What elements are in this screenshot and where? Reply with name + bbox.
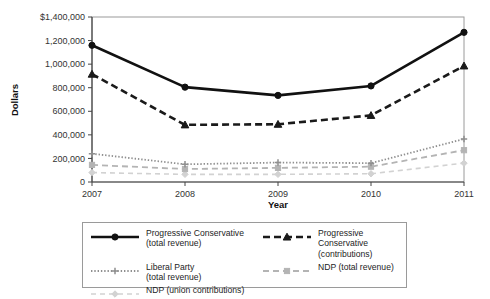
legend-entry[interactable]: NDP (union contributions) <box>89 285 402 299</box>
data-point-marker <box>112 291 118 297</box>
data-point-marker <box>89 162 94 167</box>
data-point-marker <box>368 83 374 89</box>
y-tick-label: 0 <box>80 177 85 187</box>
x-tick-label: 2011 <box>454 189 473 199</box>
x-tick-label: 2010 <box>361 189 381 199</box>
legend-swatch-dashed-diamond-palegray <box>89 286 141 299</box>
legend-entry-label: Liberal Party (total revenue) <box>146 262 201 283</box>
legend-swatch-dashdot-square-lightgray <box>261 263 313 279</box>
x-tick-label: 2008 <box>175 189 195 199</box>
data-point-marker <box>461 29 467 35</box>
data-point-marker <box>182 84 188 90</box>
data-point-marker <box>275 92 281 98</box>
y-tick-label: 1,200,000 <box>45 36 85 46</box>
x-axis-label: Year <box>268 199 288 210</box>
legend-swatch-dashed-triangle-black <box>261 229 313 245</box>
legend-entry-label: NDP (union contributions) <box>146 285 244 295</box>
y-tick-label: 600,000 <box>52 106 85 116</box>
x-axis-tick-marks <box>92 182 464 186</box>
x-tick-label: 2009 <box>268 189 288 199</box>
legend-entry-label: Progressive Conservative (contributions) <box>318 228 402 259</box>
legend-entry[interactable]: Progressive Conservative (total revenue) <box>89 228 261 259</box>
legend-entry-label: Progressive Conservative (total revenue) <box>146 228 244 249</box>
data-point-marker <box>461 148 466 153</box>
chart-legend: Progressive Conservative (total revenue)… <box>82 222 407 288</box>
data-point-marker <box>275 165 280 170</box>
legend-entry[interactable]: Progressive Conservative (contributions) <box>261 228 402 259</box>
plot-area-border <box>92 17 464 182</box>
legend-entry[interactable]: NDP (total revenue) <box>261 262 402 283</box>
y-axis-label: Dollars <box>9 84 20 116</box>
data-point-marker <box>112 234 118 240</box>
y-tick-label: $1,400,000 <box>40 12 85 22</box>
legend-swatch-dotted-plus-gray <box>89 263 141 279</box>
legend-swatch-solid-circle-black <box>89 229 141 245</box>
y-tick-label: 800,000 <box>52 83 85 93</box>
y-tick-label: 1,000,000 <box>45 59 85 69</box>
y-tick-label: 400,000 <box>52 130 85 140</box>
legend-entry-list: Progressive Conservative (total revenue)… <box>89 228 402 299</box>
data-point-marker <box>89 42 95 48</box>
chart-figure: $1,400,0001,200,0001,000,000800,000600,0… <box>0 0 490 299</box>
data-point-marker <box>112 268 118 274</box>
legend-entry[interactable]: Liberal Party (total revenue) <box>89 262 261 283</box>
legend-entry-label: NDP (total revenue) <box>318 262 394 272</box>
x-tick-label: 2007 <box>82 189 102 199</box>
x-axis-tick-labels: 20072008200920102011 <box>82 189 474 199</box>
data-point-marker <box>284 268 289 273</box>
y-tick-label: 200,000 <box>52 154 85 164</box>
y-axis-tick-labels: $1,400,0001,200,0001,000,000800,000600,0… <box>40 12 85 187</box>
